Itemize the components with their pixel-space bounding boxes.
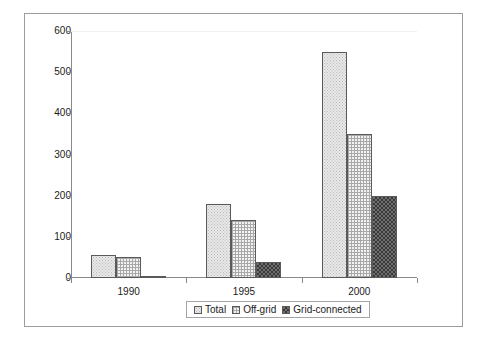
legend-item-grid-connected[interactable]: Grid-connected: [282, 304, 361, 315]
bar-1995-total: [206, 204, 231, 278]
x-axis-tick-mark: [417, 278, 418, 283]
bar-1990-grid-connected: [141, 276, 166, 278]
legend-label: Total: [205, 304, 226, 315]
bar-group-1990: [71, 31, 186, 278]
x-axis-tick-mark: [186, 278, 187, 283]
legend-swatch-icon: [232, 306, 240, 314]
legend-label: Grid-connected: [293, 304, 361, 315]
x-axis-category-label-1990: 1990: [71, 284, 186, 300]
x-axis-tick-mark: [71, 278, 72, 283]
legend-swatch-icon: [194, 306, 202, 314]
bars-layer: [71, 31, 417, 278]
x-axis-label-container: 199019952000: [71, 284, 417, 300]
y-axis-tick-label: 200: [31, 191, 71, 201]
y-axis-tick-label: 0: [31, 273, 71, 283]
x-axis-tick-mark: [302, 278, 303, 283]
legend-item-off-grid[interactable]: Off-grid: [232, 304, 276, 315]
bar-2000-grid-connected: [372, 196, 397, 278]
bar-2000-off-grid: [347, 134, 372, 278]
y-axis-tick-container: 0100200300400500600: [25, 14, 71, 328]
chart-figure-frame: Megawatts 0100200300400500600 1990199520…: [24, 13, 463, 327]
bar-1990-total: [91, 255, 116, 278]
x-axis-category-label-1995: 1995: [186, 284, 301, 300]
chart-legend: TotalOff-gridGrid-connected: [186, 301, 370, 318]
y-axis-tick-label: 600: [31, 26, 71, 36]
bar-1995-grid-connected: [256, 262, 281, 278]
x-axis-category-label-2000: 2000: [302, 284, 417, 300]
bar-1995-off-grid: [231, 220, 256, 278]
bar-group-1995: [186, 31, 301, 278]
bar-group-2000: [302, 31, 417, 278]
legend-item-total[interactable]: Total: [194, 304, 226, 315]
legend-swatch-icon: [282, 306, 290, 314]
y-axis-tick-label: 400: [31, 108, 71, 118]
y-axis-tick-label: 300: [31, 150, 71, 160]
bar-1990-off-grid: [116, 257, 141, 278]
y-axis-tick-label: 500: [31, 67, 71, 77]
bar-2000-total: [322, 52, 347, 278]
legend-label: Off-grid: [243, 304, 276, 315]
y-axis-tick-label: 100: [31, 232, 71, 242]
plot-wrapper: Megawatts 0100200300400500600 1990199520…: [25, 14, 464, 328]
